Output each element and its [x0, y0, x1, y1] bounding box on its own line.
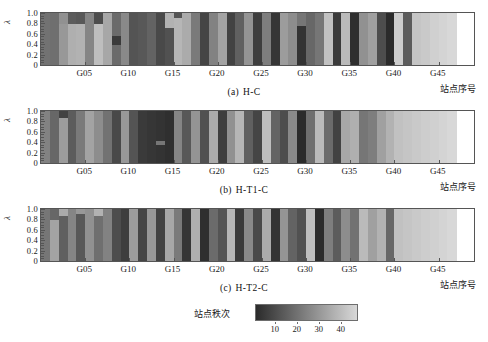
x-tick-label: G20 — [209, 264, 225, 275]
heatmap-cell — [129, 209, 138, 261]
y-minor-tick-mark — [41, 62, 44, 63]
x-tick-mark — [85, 258, 86, 261]
heatmap-column — [68, 111, 77, 163]
y-tick-label: 0.2 — [27, 148, 38, 157]
heatmap-cell — [377, 209, 386, 261]
x-tick-mark — [350, 258, 351, 261]
heatmap-cell — [324, 209, 333, 261]
heatmap-cell — [341, 111, 350, 163]
y-tick-label: 0.2 — [27, 50, 38, 59]
y-tick-label: 0.4 — [27, 236, 38, 245]
heatmap-column — [306, 209, 315, 261]
heatmap-column — [209, 209, 218, 261]
x-tick-mark — [129, 160, 130, 163]
heatmap-cell — [359, 209, 368, 261]
y-minor-tick-mark — [41, 132, 44, 133]
heatmap-cell — [386, 111, 395, 163]
y-minor-tick-mark — [41, 235, 44, 236]
y-minor-tick-mark — [41, 163, 44, 164]
heatmap-column — [244, 13, 253, 65]
heatmap-column — [50, 13, 59, 65]
heatmap-column — [297, 13, 306, 65]
heatmap-column — [200, 13, 209, 65]
y-minor-tick-mark — [41, 225, 44, 226]
heatmap-column — [244, 111, 253, 163]
caption-index-b: (b) — [220, 185, 232, 195]
y-minor-tick-mark — [41, 145, 44, 146]
y-tick-label: 1.0 — [27, 9, 38, 18]
heatmap-cell — [50, 209, 59, 220]
heatmap-cell — [341, 13, 350, 65]
x-tick-mark — [85, 160, 86, 163]
heatmap-cell — [121, 209, 130, 261]
heatmap-column — [244, 209, 253, 261]
heatmap-cell — [209, 209, 218, 261]
x-tick-mark — [306, 258, 307, 261]
heatmap-column — [386, 209, 395, 261]
colorbar-tick-label: 10 — [271, 324, 280, 334]
caption-b: (b)H-T1-C — [0, 185, 488, 195]
heatmap-cell — [439, 209, 448, 261]
x-tick-mark — [439, 258, 440, 261]
heatmap-column — [200, 209, 209, 261]
y-minor-tick-mark — [41, 57, 44, 58]
y-minor-tick-mark — [41, 238, 44, 239]
y-tick-label: 0 — [34, 257, 38, 266]
heatmap-cell — [121, 13, 130, 65]
y-minor-tick-mark — [41, 52, 44, 53]
x-tick-label: G15 — [165, 264, 181, 275]
y-minor-tick-mark — [41, 21, 44, 22]
heatmap-column — [439, 209, 448, 261]
x-tick-label: G15 — [165, 166, 181, 177]
y-minor-tick-mark — [41, 18, 44, 19]
y-tick-label: 0.6 — [27, 128, 38, 137]
heatmap-column — [50, 209, 59, 261]
heatmap-column — [129, 209, 138, 261]
y-minor-tick-mark — [41, 124, 44, 125]
heatmap-column — [324, 111, 333, 163]
heatmap-column — [280, 209, 289, 261]
heatmap-column — [200, 111, 209, 163]
heatmap-column — [280, 111, 289, 163]
heatmap-cell — [165, 209, 174, 261]
heatmap-column — [421, 111, 430, 163]
y-tick-mark — [41, 65, 45, 66]
heatmap-cell — [200, 209, 209, 261]
y-tick-label: 0 — [34, 159, 38, 168]
x-tick-mark — [174, 258, 175, 261]
y-minor-tick-mark — [41, 13, 44, 14]
heatmap-cell — [50, 13, 59, 65]
heatmap-cell — [280, 13, 289, 65]
heatmap-column — [386, 111, 395, 163]
y-minor-tick-mark — [41, 227, 44, 228]
heatmap-column — [403, 111, 412, 163]
colorbar-tick-labels: 10203040 — [255, 322, 358, 334]
heatmap-cell — [227, 111, 236, 163]
heatmap-column — [447, 111, 456, 163]
heatmap-column — [129, 111, 138, 163]
x-tick-mark — [129, 258, 130, 261]
heatmap-column — [359, 209, 368, 261]
heatmap-cell — [244, 13, 253, 65]
heatmap-column — [377, 13, 386, 65]
x-tick-label: G45 — [430, 166, 446, 177]
x-tick-label: G30 — [297, 264, 313, 275]
heatmap-cell — [68, 111, 77, 163]
y-minor-tick-mark — [41, 29, 44, 30]
heatmap-cell — [341, 209, 350, 261]
heatmap-column — [341, 111, 350, 163]
heatmap-cell — [280, 111, 289, 163]
y-tick-label: 0.6 — [27, 30, 38, 39]
heatmap-column — [386, 13, 395, 65]
heatmap-cell — [129, 13, 138, 65]
y-tick-labels-c: 00.20.40.60.81.0 — [8, 208, 38, 262]
heatmap-column — [227, 209, 236, 261]
colorbar-tick-mark — [297, 322, 298, 324]
colorbar-tick-label: 30 — [314, 324, 323, 334]
heatmap-cell — [421, 13, 430, 65]
heatmap-cell — [280, 209, 289, 261]
heatmap-cell — [147, 111, 156, 163]
heatmap-column — [447, 13, 456, 65]
heatmap-column — [103, 13, 112, 65]
heatmap-column — [341, 13, 350, 65]
